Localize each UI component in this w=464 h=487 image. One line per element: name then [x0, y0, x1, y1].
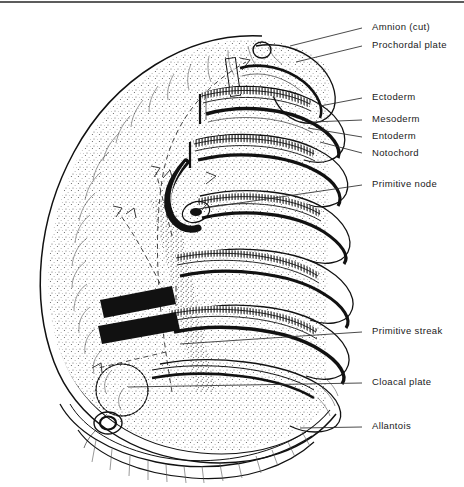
leader-amnion	[290, 28, 362, 46]
label-mesoderm: Mesoderm	[372, 113, 420, 124]
label-primitive-streak: Primitive streak	[372, 325, 443, 336]
label-primitive-node: Primitive node	[372, 178, 437, 189]
label-prochordal-plate: Prochordal plate	[372, 39, 447, 50]
primitive-node-core	[190, 208, 202, 216]
label-amnion: Amnion (cut)	[372, 21, 430, 32]
label-notochord: Notochord	[372, 147, 419, 158]
label-allantois: Allantois	[372, 420, 411, 431]
label-entoderm: Entoderm	[372, 130, 416, 141]
leader-allantois	[300, 427, 362, 428]
label-ectoderm: Ectoderm	[372, 91, 415, 102]
embryology-diagram: Amnion (cut) Prochordal plate Ectoderm M…	[0, 0, 464, 487]
labels: Amnion (cut) Prochordal plate Ectoderm M…	[372, 21, 447, 431]
label-cloacal-plate: Cloacal plate	[372, 376, 431, 387]
